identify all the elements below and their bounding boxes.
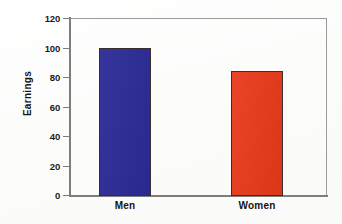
- y-tick-label-120: 120: [30, 14, 60, 24]
- y-tick-label-0: 0: [30, 191, 60, 201]
- y-tick-label-80: 80: [30, 73, 60, 83]
- y-tick-label-100: 100: [30, 44, 60, 54]
- x-tick-label-men: Men: [80, 200, 170, 211]
- bar-chart-figure: Earnings 120 100 80 60 40 20 0 Men Women: [0, 0, 342, 224]
- y-tick-label-40: 40: [30, 132, 60, 142]
- y-axis-tick-labels: 120 100 80 60 40 20 0: [27, 0, 60, 224]
- bar-women: [231, 71, 283, 196]
- bar-men: [99, 48, 151, 196]
- x-tick-label-women: Women: [212, 200, 302, 211]
- y-tick-label-60: 60: [30, 103, 60, 113]
- y-axis-line: [69, 17, 71, 197]
- y-tick-label-20: 20: [30, 162, 60, 172]
